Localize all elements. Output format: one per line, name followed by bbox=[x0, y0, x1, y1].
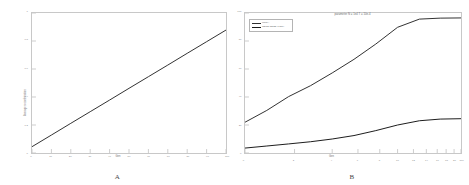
panel-b-ytick-1: 20 bbox=[235, 124, 242, 127]
panel-a-xtick-7: 70 bbox=[167, 156, 170, 159]
panel-b-xtick-3: 6 bbox=[357, 160, 358, 163]
panel-a-xtick-10: 100 bbox=[225, 156, 229, 159]
panel-b-series-mrca bbox=[245, 18, 461, 122]
panel-b-xtick-8: 16 bbox=[436, 160, 439, 163]
panel-a-xtick-5: 50 bbox=[128, 156, 131, 159]
panel-b-ytick-0: 0 bbox=[235, 153, 242, 156]
panel-a-xtick-1: 10 bbox=[49, 156, 52, 159]
panel-a-ytick-1: 0.2 bbox=[20, 124, 28, 127]
panel-b-title: parameter N = 1e4 T = 10e-4 bbox=[334, 13, 370, 16]
panel-b-ytick-5: 100 bbox=[235, 11, 242, 14]
panel-a-xtick-8: 80 bbox=[186, 156, 189, 159]
panel-a-xlabel: Gen bbox=[115, 156, 120, 159]
legend-item-genealogy: GENE GENEALOGY bbox=[252, 26, 290, 30]
panel-a-plot-area bbox=[31, 12, 227, 154]
panel-b-legend: MRCA GENE GENEALOGY bbox=[249, 19, 293, 32]
panel-b-xtick-1: 2 bbox=[293, 160, 294, 163]
panel-b-ytick-4: 80 bbox=[235, 39, 242, 42]
panel-b-xtick-6: 12 bbox=[412, 160, 415, 163]
panel-b-xtick-marks bbox=[245, 149, 461, 153]
panel-a-series-line bbox=[32, 30, 226, 147]
panel-b-plot-area bbox=[244, 12, 462, 154]
panel-a-ytick-5: 1 bbox=[20, 11, 28, 14]
panel-b: parameter N = 1e4 T = 10e-4 MRCA GENE GE… bbox=[235, 0, 469, 185]
panel-a-ytick-3: 0.6 bbox=[20, 68, 28, 71]
panel-b-xtick-9: 18 bbox=[445, 160, 448, 163]
panel-a-ytick-0: 0 bbox=[20, 153, 28, 156]
panel-a-ytick-marks bbox=[32, 13, 36, 153]
panel-a: Average recombination Gen 0 10 20 30 40 … bbox=[0, 0, 235, 185]
panel-a-ytick-2: 0.4 bbox=[20, 96, 28, 99]
legend-label-genealogy: GENE GENEALOGY bbox=[262, 26, 284, 28]
panel-b-series-genealogy bbox=[245, 119, 461, 148]
panel-a-xtick-3: 30 bbox=[88, 156, 91, 159]
panel-b-ytick-2: 40 bbox=[235, 96, 242, 99]
panel-a-xtick-marks bbox=[32, 149, 226, 153]
panel-a-ylabel: Average recombination bbox=[25, 89, 28, 116]
panel-b-xtick-4: 8 bbox=[379, 160, 380, 163]
figure-container: Average recombination Gen 0 10 20 30 40 … bbox=[0, 0, 469, 185]
panel-b-line-chart bbox=[245, 13, 461, 153]
legend-line-icon-mrca bbox=[252, 23, 261, 24]
panel-a-xtick-6: 60 bbox=[147, 156, 150, 159]
panel-b-xtick-10: 20 bbox=[453, 160, 456, 163]
panel-a-xtick-2: 20 bbox=[69, 156, 72, 159]
panel-b-xtick-7: 14 bbox=[425, 160, 428, 163]
panel-a-caption: A bbox=[0, 173, 235, 181]
legend-line-icon-genealogy bbox=[252, 27, 261, 28]
panel-b-xtick-5: 10 bbox=[396, 160, 399, 163]
panel-a-line-chart bbox=[32, 13, 226, 153]
panel-b-caption: B bbox=[235, 173, 469, 181]
panel-b-xtick-0: 0 bbox=[243, 160, 244, 163]
panel-a-xtick-4: 40 bbox=[108, 156, 111, 159]
panel-b-xtick-2: 4 bbox=[331, 160, 332, 163]
panel-a-xtick-9: 90 bbox=[206, 156, 209, 159]
panel-a-ytick-4: 0.8 bbox=[20, 39, 28, 42]
panel-b-ytick-3: 60 bbox=[235, 68, 242, 71]
panel-a-xtick-0: 0 bbox=[30, 156, 31, 159]
panel-b-xtick-11: 100 bbox=[459, 160, 463, 163]
panel-b-ytick-marks bbox=[245, 13, 249, 153]
